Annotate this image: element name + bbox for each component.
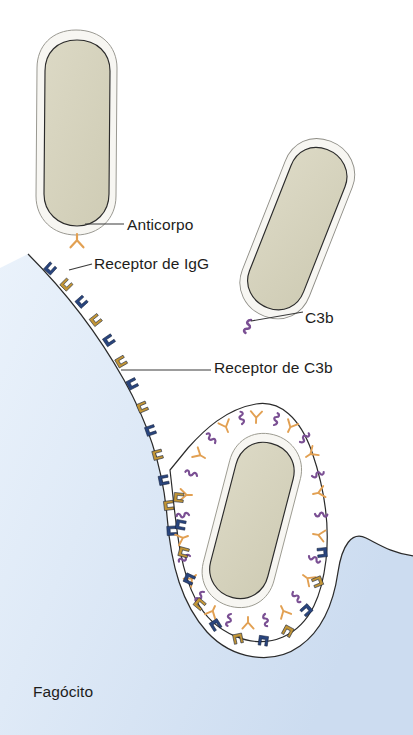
free-bacterium-upper	[36, 30, 117, 247]
c3b-receptor[interactable]	[89, 313, 102, 326]
c3b-receptor[interactable]	[233, 633, 244, 644]
c3b-receptor[interactable]	[60, 278, 73, 291]
phagocytosis-diagram	[0, 0, 413, 735]
label-phagocyte: Fagócito	[33, 684, 93, 700]
bacterium-body	[44, 40, 110, 226]
free-bacterium-right	[230, 128, 365, 329]
label-igg-receptor: Receptor de IgG	[94, 256, 209, 272]
antibody-molecule	[71, 234, 84, 247]
leader-receptor-igg	[69, 264, 92, 270]
igg-receptor[interactable]	[102, 334, 115, 347]
label-antibody: Anticorpo	[127, 217, 193, 233]
label-c3b-receptor: Receptor de C3b	[214, 360, 333, 376]
label-c3b: C3b	[305, 310, 334, 326]
c3b-receptor[interactable]	[163, 500, 174, 510]
igg-receptor[interactable]	[75, 295, 88, 308]
bacterium-body	[239, 139, 355, 318]
igg-receptor[interactable]	[158, 475, 169, 486]
